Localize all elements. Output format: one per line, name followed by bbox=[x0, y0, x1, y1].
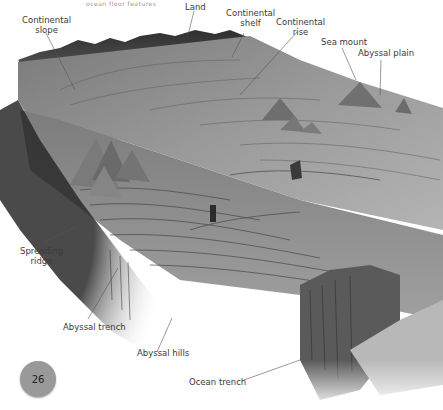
ocean-floor-illustration bbox=[0, 0, 443, 410]
label-abyssal-plain: Abyssal plain bbox=[358, 48, 414, 58]
label-continental-shelf: Continental shelf bbox=[226, 8, 275, 28]
label-ocean-trench: Ocean trench bbox=[189, 377, 246, 387]
label-abyssal-hills: Abyssal hills bbox=[137, 348, 189, 358]
label-continental-slope: Continental slope bbox=[22, 15, 71, 35]
label-continental-rise: Continental rise bbox=[276, 17, 325, 37]
page-number-badge: 26 bbox=[20, 361, 56, 397]
label-sea-mount: Sea mount bbox=[321, 37, 367, 47]
label-abyssal-trench: Abyssal trench bbox=[63, 322, 126, 332]
label-land: Land bbox=[185, 2, 206, 12]
label-spreading-ridge: Spreading ridge bbox=[20, 246, 63, 266]
